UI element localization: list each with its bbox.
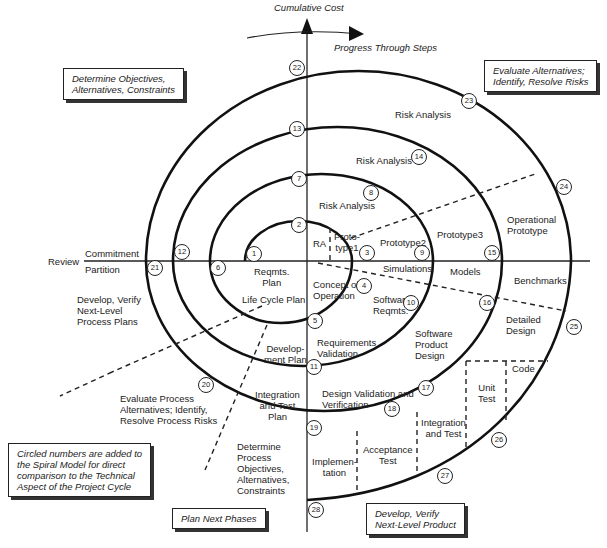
- progress-label: Progress Through Steps: [334, 42, 437, 53]
- prototype1-label: Proto- type1: [334, 231, 360, 253]
- risk-analysis-3: Risk Analysis: [356, 155, 412, 166]
- determine-process-label: Determine Process Objectives, Alternativ…: [237, 441, 289, 496]
- simulations-label: Simulations: [383, 263, 432, 274]
- circled-number-17: 17: [418, 380, 434, 396]
- circled-number-28: 28: [308, 502, 324, 518]
- circled-number-10: 10: [403, 295, 419, 311]
- circled-number-22: 22: [289, 60, 305, 76]
- reqmts-plan-label: Reqmts. Plan: [254, 266, 289, 288]
- circled-number-26: 26: [491, 432, 507, 448]
- risk-analysis-2: Risk Analysis: [319, 200, 375, 211]
- circled-number-16: 16: [479, 295, 495, 311]
- circled-number-12: 12: [174, 244, 190, 260]
- circled-number-18: 18: [384, 401, 400, 417]
- circled-number-23: 23: [461, 93, 477, 109]
- circled-number-24: 24: [556, 179, 572, 195]
- models-label: Models: [450, 266, 481, 277]
- evaluate-process-label: Evaluate Process Alternatives; Identify,…: [120, 393, 217, 426]
- integration-and-test-label: Integration and Test: [421, 417, 466, 439]
- integration-test-plan-label: Integration and Test Plan: [255, 389, 300, 422]
- software-product-design-label: Software Product Design: [415, 328, 453, 361]
- circled-number-21: 21: [147, 260, 163, 276]
- ra-label: RA: [313, 238, 326, 249]
- circled-number-9: 9: [414, 245, 430, 261]
- life-cycle-plan-label: Life Cycle Plan: [242, 294, 305, 305]
- acceptance-test-label: Acceptance Test: [363, 444, 413, 466]
- design-validation-label: Design Validation and Verification: [322, 388, 414, 410]
- progress-arrow-icon: [349, 26, 364, 41]
- circled-number-15: 15: [484, 245, 500, 261]
- partition-label: Partition: [85, 264, 120, 275]
- review-label: Review: [48, 256, 79, 267]
- circled-number-7: 7: [291, 171, 307, 187]
- circled-number-3: 3: [359, 245, 375, 261]
- circled-number-11: 11: [306, 359, 322, 375]
- circled-numbers-note-box: Circled numbers are added to the Spiral …: [8, 443, 151, 497]
- commitment-label: Commitment: [85, 248, 139, 259]
- detailed-design-label: Detailed Design: [506, 314, 541, 336]
- circled-number-8: 8: [363, 185, 379, 201]
- development-plan-label: Develop- ment Plan: [264, 343, 307, 365]
- concept-of-operation-label: Concept of Operation: [313, 279, 359, 301]
- circled-number-2: 2: [291, 217, 307, 233]
- code-label: Code: [512, 363, 535, 374]
- operational-prototype-label: Operational Prototype: [507, 214, 556, 236]
- develop-verify-product-box: Develop, Verify Next-Level Product: [366, 503, 465, 535]
- prototype3-label: Prototype3: [437, 229, 483, 240]
- cumulative-cost-label: Cumulative Cost: [274, 2, 344, 13]
- implementation-label: Implemen- tation: [312, 456, 357, 478]
- evaluate-alternatives-box: Evaluate Alternatives; Identify, Resolve…: [484, 60, 597, 92]
- circled-number-25: 25: [566, 319, 582, 335]
- develop-verify-process-label: Develop, Verify Next-Level Process Plans: [77, 294, 141, 327]
- benchmarks-label: Benchmarks: [514, 275, 567, 286]
- unit-test-label: Unit Test: [478, 382, 495, 404]
- risk-analysis-outer: Risk Analysis: [395, 109, 451, 120]
- requirements-validation-label: Requirements Validation: [317, 337, 376, 359]
- circled-number-5: 5: [307, 313, 323, 329]
- circled-number-13: 13: [289, 121, 305, 137]
- circled-number-1: 1: [246, 246, 262, 262]
- circled-number-19: 19: [306, 420, 322, 436]
- circled-number-6: 6: [210, 260, 226, 276]
- circled-number-27: 27: [437, 468, 453, 484]
- plan-next-phases-box: Plan Next Phases: [172, 508, 266, 529]
- circled-number-4: 4: [356, 278, 372, 294]
- circled-number-14: 14: [411, 149, 427, 165]
- circled-number-20: 20: [198, 377, 214, 393]
- determine-objectives-box: Determine Objectives, Alternatives, Cons…: [63, 68, 184, 100]
